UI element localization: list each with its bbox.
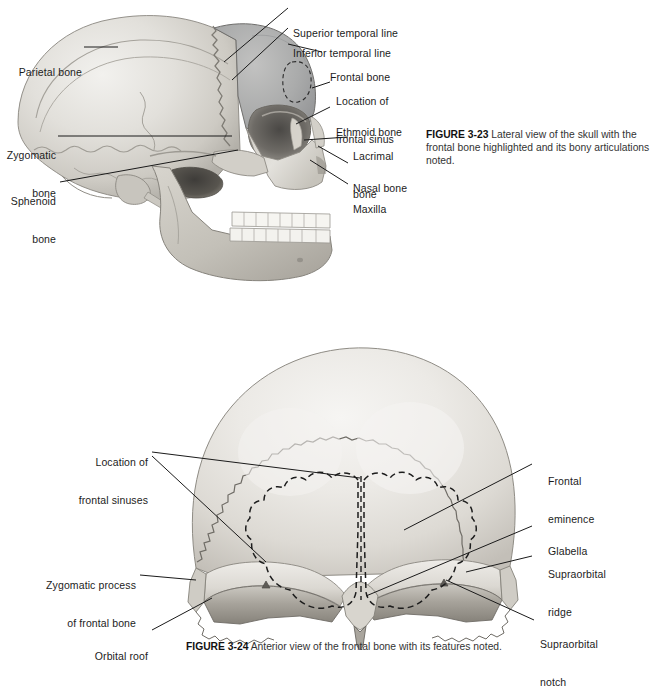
caption-3-24-number: FIGURE 3-24 [186, 641, 248, 650]
mental-foramen [297, 258, 303, 262]
label-supraorbital-notch-line2: notch [540, 676, 598, 689]
label-supraorbital-notch: Supraorbital notch [540, 613, 598, 690]
caption-3-24-text: Anterior view of the frontal bone with i… [251, 641, 502, 650]
caption-figure-3-23: FIGURE 3-23 Lateral view of the skull wi… [426, 128, 650, 168]
glabella-region [342, 582, 378, 630]
label-orbital-roof-line1: Orbital roof [60, 650, 148, 663]
label-supraorbital-ridge-line1: Supraorbital [548, 568, 606, 581]
frontal-eminence-right [356, 402, 464, 494]
label-orbital-roof: Orbital roof [60, 625, 148, 688]
label-zygomatic-bone-line1: Zygomatic [0, 149, 56, 162]
label-location-frontal-sinuses-line1: Location of [22, 456, 148, 469]
leader-orbital-roof [152, 598, 212, 630]
caption-figure-3-24: FIGURE 3-24 Anterior view of the frontal… [186, 640, 586, 650]
label-location-frontal-sinuses-line2: frontal sinuses [22, 494, 148, 507]
label-zygomatic-process-line1: Zygomatic process [0, 579, 136, 592]
zygomatic-process-left [188, 568, 206, 612]
frontal-eminence-left [238, 408, 342, 496]
label-frontal-eminence-line1: Frontal [548, 475, 594, 488]
label-maxilla-line1: Maxilla [353, 203, 386, 216]
label-parietal-bone: Parietal bone [4, 41, 82, 104]
label-sphenoid-bone-line2: bone [0, 233, 56, 246]
zygomatic-process-right [500, 566, 518, 610]
label-location-frontal-sinuses: Location of frontal sinuses [22, 431, 148, 531]
maxillary-teeth-row [232, 212, 330, 228]
leader-zygomatic-process [140, 575, 196, 580]
caption-3-23-number: FIGURE 3-23 [426, 129, 488, 140]
label-sphenoid-bone-line1: Sphenoid [0, 195, 56, 208]
label-parietal-bone-line1: Parietal bone [4, 66, 82, 79]
figure-frontal-bone: Location of frontal sinuses Zygomatic pr… [0, 330, 656, 650]
label-maxilla: Maxilla [353, 178, 386, 241]
label-sphenoid-bone: Sphenoid bone [0, 170, 56, 270]
mandibular-teeth-row [230, 228, 330, 243]
